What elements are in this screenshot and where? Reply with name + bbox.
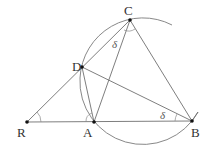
angle-label-b: δ [160, 109, 166, 121]
label-b: B [191, 125, 200, 140]
angle-mark-c [124, 29, 135, 31]
point-a [92, 120, 96, 124]
label-c: C [124, 3, 133, 18]
angle-mark-b [175, 114, 177, 121]
angle-mark-r [37, 112, 41, 122]
segment-rb [27, 121, 192, 122]
label-r: R [17, 125, 26, 140]
segment-da [82, 67, 94, 122]
label-d: D [72, 59, 81, 74]
point-r [25, 120, 29, 124]
geometry-diagram: δ δ R A B C D [0, 0, 213, 157]
point-c [128, 18, 132, 22]
point-b [190, 119, 194, 123]
circumcircle-arc [80, 18, 198, 145]
angle-label-c: δ [112, 38, 118, 50]
label-a: A [83, 125, 93, 140]
